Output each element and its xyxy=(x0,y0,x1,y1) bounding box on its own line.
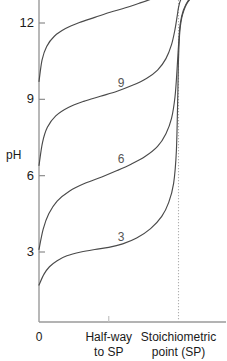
curve-label-9: 9 xyxy=(118,76,125,90)
y-tick-label: 12 xyxy=(2,15,34,30)
y-axis-title: pH xyxy=(6,148,21,162)
curve-label-3: 3 xyxy=(118,230,125,244)
titration-curve-6 xyxy=(39,0,199,249)
y-tick-label: 9 xyxy=(2,91,34,106)
titration-curve-chart: 12963 0Half-way to SPStoichiometric poin… xyxy=(0,0,226,361)
curve-label-6: 6 xyxy=(118,152,125,166)
y-tick-label: 6 xyxy=(2,168,34,183)
titration-curve-12 xyxy=(39,0,199,82)
y-tick-label: 3 xyxy=(2,244,34,259)
x-tick-label: 0 xyxy=(19,330,59,345)
x-tick-label: Stoichiometric point (SP) xyxy=(124,330,227,360)
axes-group xyxy=(39,0,226,322)
